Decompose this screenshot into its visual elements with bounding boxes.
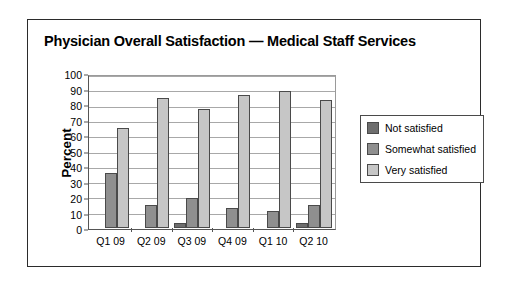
bars-layer: Q1 09Q2 09Q3 09Q4 09Q1 10Q2 10 — [90, 77, 334, 228]
chart-legend: Not satisfiedSomewhat satisfiedVery sati… — [360, 115, 484, 183]
y-tick-mark — [84, 199, 88, 200]
bar — [296, 223, 308, 228]
y-tick-label: 50 — [70, 147, 82, 159]
y-tick-mark — [84, 183, 88, 184]
bar — [117, 128, 129, 227]
y-tick-label: 30 — [70, 178, 82, 190]
x-tick-mark — [131, 228, 132, 232]
x-tick-mark — [212, 228, 213, 232]
legend-label: Somewhat satisfied — [385, 143, 476, 155]
y-tick-label: 20 — [70, 193, 82, 205]
y-tick-label: 100 — [64, 69, 82, 81]
y-tick-mark — [84, 90, 88, 91]
y-tick-mark — [84, 106, 88, 107]
y-tick-label: 10 — [70, 209, 82, 221]
y-tick-mark — [84, 168, 88, 169]
x-tick-label: Q1 10 — [259, 235, 288, 247]
bar-group: Q3 09 — [172, 77, 213, 228]
x-tick-label: Q2 09 — [137, 235, 166, 247]
y-tick-label: 40 — [70, 162, 82, 174]
legend-item[interactable]: Very satisfied — [367, 164, 476, 176]
y-tick-mark — [84, 152, 88, 153]
y-tick-mark — [84, 75, 88, 76]
bar-group: Q2 10 — [293, 77, 334, 228]
plot-area: Q1 09Q2 09Q3 09Q4 09Q1 10Q2 10 — [88, 75, 336, 230]
bar-group: Q4 09 — [212, 77, 253, 228]
x-tick-label: Q1 09 — [96, 235, 125, 247]
legend-item[interactable]: Not satisfied — [367, 122, 476, 134]
bar-group: Q1 10 — [253, 77, 294, 228]
y-tick-label: 70 — [70, 116, 82, 128]
bar — [320, 100, 332, 228]
legend-item[interactable]: Somewhat satisfied — [367, 143, 476, 155]
legend-swatch-icon — [367, 143, 379, 155]
x-tick-label: Q3 09 — [178, 235, 207, 247]
bar — [308, 205, 320, 228]
y-tick-label: 60 — [70, 131, 82, 143]
bar — [105, 173, 117, 227]
y-tick-label: 80 — [70, 100, 82, 112]
bar — [157, 98, 169, 228]
bar-group: Q1 09 — [90, 77, 131, 228]
bar — [186, 198, 198, 228]
legend-swatch-icon — [367, 122, 379, 134]
x-tick-label: Q4 09 — [218, 235, 247, 247]
chart-figure: Physician Overall Satisfaction — Medical… — [27, 19, 481, 267]
bar — [226, 208, 238, 228]
bar — [279, 91, 291, 228]
x-tick-mark — [253, 228, 254, 232]
x-tick-label: Q2 10 — [299, 235, 328, 247]
legend-label: Not satisfied — [385, 122, 443, 134]
bar — [267, 211, 279, 228]
bar — [174, 223, 186, 228]
bar — [238, 95, 250, 228]
chart-title: Physician Overall Satisfaction — Medical… — [44, 33, 416, 49]
legend-label: Very satisfied — [385, 164, 447, 176]
bar-group: Q2 09 — [131, 77, 172, 228]
x-tick-mark — [293, 228, 294, 232]
bar — [198, 109, 210, 228]
plot-wrapper: Percent Q1 09Q2 09Q3 09Q4 09Q1 10Q2 10 1… — [88, 75, 336, 230]
legend-swatch-icon — [367, 164, 379, 176]
y-tick-mark — [84, 137, 88, 138]
y-tick-mark — [84, 121, 88, 122]
bar — [145, 205, 157, 228]
y-tick-label: 90 — [70, 85, 82, 97]
y-tick-mark — [84, 230, 88, 231]
y-tick-label: 0 — [76, 224, 82, 236]
x-tick-mark — [172, 228, 173, 232]
y-tick-mark — [84, 214, 88, 215]
